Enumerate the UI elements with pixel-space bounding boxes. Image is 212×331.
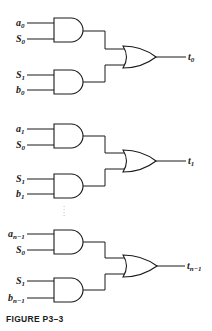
figure-caption: FIGURE P3–3 — [6, 314, 64, 324]
wire-and-top-to-or — [83, 242, 126, 258]
and-gate-top — [54, 124, 83, 148]
output-label-t1: t1 — [188, 156, 194, 168]
input-label-s1: S1 — [16, 174, 25, 186]
input-label-s1: S1 — [16, 70, 25, 82]
output-label-t0: t0 — [188, 52, 194, 64]
input-label-b1: b1 — [16, 189, 25, 201]
or-gate — [123, 255, 157, 277]
wire-and-bottom-to-or — [83, 274, 126, 290]
and-gate-bottom — [54, 70, 83, 94]
and-gate-bottom — [54, 174, 83, 198]
input-label-s1: S1 — [16, 276, 25, 288]
wire-and-top-to-or — [83, 31, 126, 49]
and-gate-top — [54, 18, 83, 42]
input-label-s0: S0 — [16, 140, 25, 152]
input-label-s0: S0 — [16, 245, 25, 257]
input-label-an-1: an−1 — [8, 229, 25, 241]
input-label-a0: a0 — [16, 18, 25, 30]
and-gate-bottom — [54, 278, 83, 302]
and-gate-top — [54, 230, 83, 254]
or-gate — [123, 150, 156, 172]
output-label-tn-1: tn−1 — [187, 261, 201, 273]
input-label-b0: b0 — [16, 85, 25, 97]
wire-and-bottom-to-or — [83, 169, 126, 186]
mux-group-n-1 — [27, 230, 185, 302]
input-label-a1: a1 — [16, 124, 25, 136]
wire-and-top-to-or — [83, 136, 126, 153]
wire-and-bottom-to-or — [83, 65, 126, 82]
mux-group-0 — [27, 18, 186, 94]
input-label-s0: S0 — [16, 34, 25, 46]
or-gate — [123, 46, 156, 68]
mux-group-1 — [27, 124, 186, 198]
input-label-bn-1: bn−1 — [8, 293, 25, 305]
continuation-ellipsis: ···· — [63, 205, 65, 217]
logic-circuit-diagram — [0, 0, 212, 331]
